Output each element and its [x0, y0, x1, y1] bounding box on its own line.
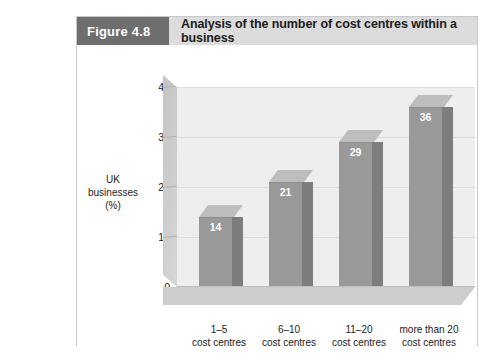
- figure-number-label: Figure 4.8: [77, 17, 169, 45]
- figure-title: Analysis of the number of cost centres w…: [169, 17, 477, 45]
- bar-4[interactable]: 36: [409, 107, 442, 287]
- plot-floor: [163, 287, 475, 305]
- wall-gridline-20: [163, 186, 177, 188]
- figure-header: Figure 4.8 Analysis of the number of cos…: [77, 17, 477, 45]
- wall-gridline-10: [163, 236, 177, 238]
- x-tick-label-4: more than 20 cost centres: [379, 323, 479, 349]
- bar-3[interactable]: 29: [339, 142, 372, 287]
- bar-1-front-face: [199, 217, 232, 287]
- bar-3-top-face: [339, 130, 383, 142]
- bar-2-top-face: [269, 170, 313, 182]
- gridline-40: [177, 87, 475, 88]
- bar-4-top-face: [409, 95, 453, 107]
- floor-top-edge: [177, 286, 475, 287]
- bar-3-side-face: [372, 142, 383, 287]
- wall-gridline-40: [163, 86, 177, 88]
- x-tick-label-4-line-2: cost centres: [379, 336, 479, 349]
- plot-back-wall: 14 21 29 36: [177, 87, 475, 287]
- y-axis-title-line-2: businesses: [88, 187, 138, 198]
- y-axis-title-line-3: (%): [105, 200, 121, 211]
- bar-4-front-face: [409, 107, 442, 287]
- x-tick-label-4-line-1: more than 20: [379, 323, 479, 336]
- y-axis-title: UK businesses (%): [79, 173, 147, 212]
- wall-gridline-30: [163, 136, 177, 138]
- bar-1[interactable]: 14: [199, 217, 232, 287]
- chart-area: UK businesses (%) 40 30 20 10 0: [77, 45, 477, 347]
- bar-4-side-face: [442, 107, 453, 287]
- bar-2-front-face: [269, 182, 302, 287]
- bar-2[interactable]: 21: [269, 182, 302, 287]
- bar-1-top-face: [199, 205, 243, 217]
- bar-1-side-face: [232, 217, 243, 287]
- left-side-wall: [163, 75, 177, 287]
- figure-container: Figure 4.8 Analysis of the number of cos…: [76, 16, 478, 346]
- bar-2-side-face: [302, 182, 313, 287]
- plot-area-3d: 14 21 29 36: [163, 75, 475, 320]
- bar-3-front-face: [339, 142, 372, 287]
- x-axis-tick-labels: 1–5 cost centres 6–10 cost centres 11–20…: [163, 323, 483, 353]
- y-axis-title-line-1: UK: [106, 174, 120, 185]
